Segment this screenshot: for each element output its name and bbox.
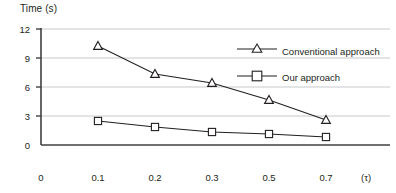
chart-plot-svg bbox=[0, 0, 396, 193]
gridlines bbox=[41, 29, 390, 116]
data-point-marker-square bbox=[208, 128, 215, 135]
triangle-marker-icon bbox=[252, 44, 262, 52]
chart-container: Time (s) 12 9 6 3 0 0 0.1 0.2 0.3 0.5 0.… bbox=[0, 0, 396, 193]
data-point-marker-square bbox=[151, 123, 158, 130]
series-conventional-approach bbox=[94, 42, 331, 124]
legend-marker-our bbox=[237, 71, 277, 81]
legend-marker-conventional bbox=[237, 44, 277, 52]
data-point-marker-triangle bbox=[94, 42, 103, 50]
square-marker-icon bbox=[252, 71, 262, 81]
data-point-marker-square bbox=[322, 133, 329, 140]
data-point-marker-square bbox=[94, 117, 101, 124]
series-our-approach bbox=[94, 117, 329, 140]
data-point-marker-triangle bbox=[151, 70, 160, 78]
data-point-marker-square bbox=[265, 130, 272, 137]
